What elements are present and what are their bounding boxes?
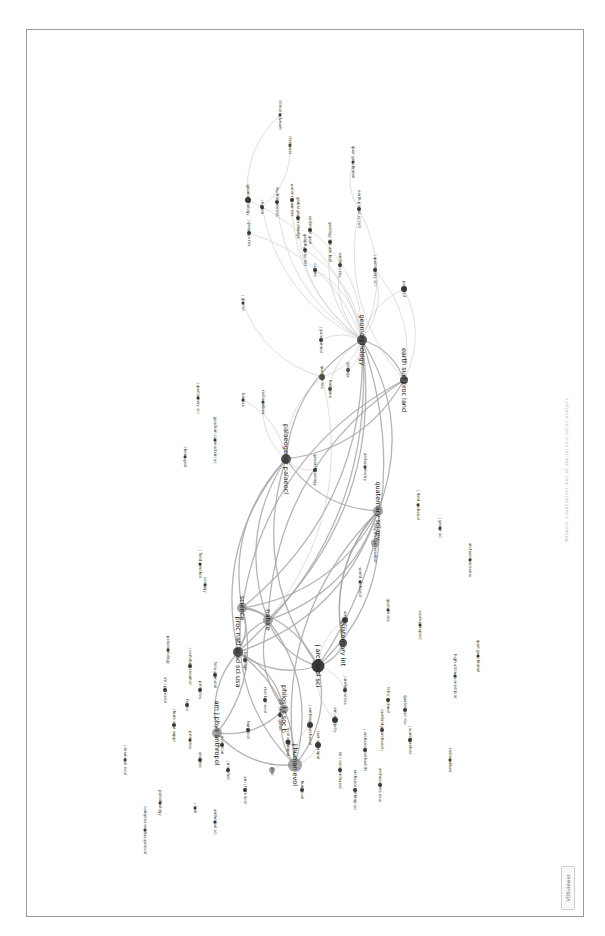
network-node[interactable]: j zool bbox=[193, 802, 198, 814]
node-label: geomorphology bbox=[246, 184, 251, 216]
node-label: am j hum biol bbox=[243, 776, 248, 803]
network-node[interactable]: lithic technol bbox=[386, 687, 391, 713]
network-node[interactable]: j mammal evol bbox=[123, 744, 128, 775]
network-node[interactable]: archaeol anthrop sci bbox=[353, 770, 358, 811]
network-node[interactable]: geochim cosmochim ac bbox=[213, 416, 218, 463]
network-node[interactable]: boreas bbox=[241, 393, 246, 407]
network-node[interactable]: water resour res bbox=[290, 184, 295, 217]
network-node[interactable]: am j hum genet bbox=[278, 699, 283, 731]
network-node[interactable]: earth planet sc lett bbox=[357, 190, 362, 229]
network-node[interactable]: quat geochronol bbox=[351, 146, 356, 179]
network-node[interactable]: paleobiology bbox=[158, 790, 163, 816]
network-node[interactable]: j geophys res bbox=[247, 219, 252, 247]
network-node[interactable]: j archaeol method th bbox=[363, 728, 368, 771]
network-node[interactable]: am j hum biol bbox=[243, 776, 248, 803]
network-node[interactable]: j field archaeol bbox=[416, 489, 421, 520]
network-node[interactable]: am j phys anthropol bbox=[212, 701, 222, 766]
network-node[interactable]: j hydrol bbox=[260, 199, 265, 215]
network-node[interactable]: j geogr sci bbox=[438, 517, 443, 539]
network-node[interactable]: palaeo3 bbox=[401, 281, 407, 297]
node-label: j geogr sci bbox=[438, 517, 443, 539]
network-node[interactable]: hydrol process bbox=[275, 187, 280, 216]
node-label: quatern res bbox=[320, 365, 325, 388]
network-node[interactable]: j archaeol sci bbox=[312, 644, 325, 688]
network-node[interactable]: evol anthropol bbox=[286, 728, 291, 757]
node-label: j vertebr paleontol bbox=[188, 646, 193, 684]
node-label: primates bbox=[188, 731, 193, 749]
network-node[interactable]: quatern res bbox=[319, 365, 325, 388]
network-node[interactable]: ecology bbox=[203, 577, 208, 593]
node-label: high altitude med biol bbox=[453, 654, 458, 698]
network-node[interactable]: geomorphology bbox=[245, 184, 251, 216]
node-label: palaeontology bbox=[166, 636, 171, 665]
network-node[interactable]: radiocarbon bbox=[448, 748, 453, 772]
network-node[interactable]: mol biol evol bbox=[263, 687, 268, 713]
network-node[interactable]: j anat bbox=[269, 763, 275, 776]
network-node[interactable]: holocene bbox=[328, 380, 333, 399]
network-node[interactable]: am antiquity bbox=[332, 707, 338, 733]
network-node[interactable]: world archaeol bbox=[358, 567, 363, 597]
network-node[interactable]: veg hist archaeobot bbox=[371, 523, 379, 563]
network-node[interactable]: quat geochronol bbox=[476, 640, 481, 673]
network-node[interactable]: climate dynam bbox=[278, 100, 283, 130]
network-node[interactable]: j paleolimnol bbox=[319, 326, 324, 353]
network-node[interactable]: geomorphology bbox=[357, 314, 367, 365]
network-node[interactable]: geoarchaeology bbox=[313, 454, 318, 487]
network-node[interactable]: palaeontology bbox=[166, 636, 171, 665]
network-node[interactable]: primates bbox=[198, 681, 203, 699]
network-node[interactable]: j world prehist bbox=[408, 725, 413, 755]
network-node[interactable]: primates bbox=[188, 731, 193, 749]
network-node[interactable]: hum evol bbox=[300, 781, 305, 800]
network-node[interactable]: homo bbox=[185, 699, 190, 711]
network-node[interactable]: science bbox=[237, 596, 247, 620]
network-node[interactable]: catena bbox=[313, 263, 318, 277]
network-node[interactable]: nature bbox=[263, 609, 273, 630]
network-node[interactable]: earth-sci rev bbox=[338, 252, 343, 278]
network-node[interactable]: j anthropol res bbox=[343, 675, 348, 705]
network-node[interactable]: archaeol res asia bbox=[378, 768, 383, 803]
network-node[interactable]: evolution bbox=[220, 736, 225, 755]
network-node[interactable]: radiocarbon bbox=[261, 390, 266, 414]
node-label: evol anthropol bbox=[286, 728, 291, 757]
network-node[interactable]: chem geol bbox=[183, 447, 188, 468]
node-label: earth-sci rev bbox=[338, 252, 343, 278]
node-label: nature bbox=[264, 609, 272, 630]
network-node[interactable]: archaeol oceania bbox=[468, 543, 473, 578]
network-node[interactable]: archaeometry bbox=[363, 453, 368, 482]
network-node[interactable]: j glaciol bbox=[241, 294, 246, 310]
network-node[interactable]: j biogeogr bbox=[243, 649, 248, 670]
network-edge bbox=[286, 340, 362, 459]
network-node[interactable]: j anthropol archaeol bbox=[307, 704, 313, 745]
network-node[interactable]: j vertebr paleontol bbox=[188, 646, 193, 684]
network-node[interactable]: comptes rendus palevol bbox=[143, 806, 148, 854]
network-node[interactable]: earth surf proc land bbox=[400, 348, 408, 412]
network-node[interactable]: geology bbox=[346, 362, 351, 379]
node-label: geoarchaeology bbox=[313, 454, 318, 487]
network-node[interactable]: j hum evol suppl bbox=[172, 707, 177, 741]
node-label: lithic technol bbox=[386, 687, 391, 713]
node-label: radiocarbon bbox=[448, 748, 453, 772]
network-node[interactable]: clim past bbox=[288, 136, 293, 155]
node-label: mol biol evol bbox=[263, 687, 268, 713]
network-node[interactable]: high altitude med biol bbox=[453, 654, 458, 698]
network-node[interactable]: cambridge archaeol j bbox=[380, 709, 385, 751]
network-node[interactable]: hum biol bbox=[246, 721, 251, 738]
network-node[interactable]: anthropol sci bbox=[213, 809, 218, 835]
network-node[interactable]: palaeogeogr palaeocl bbox=[281, 424, 291, 494]
network-node[interactable]: int j primatol bbox=[163, 677, 168, 703]
network-node[interactable]: geology soc am bull bbox=[328, 222, 333, 262]
network-node[interactable]: asian perspect bbox=[418, 610, 423, 640]
network-node[interactable]: quatern sci rev bbox=[403, 695, 408, 726]
network-node[interactable]: global planet change bbox=[296, 197, 301, 240]
network-node[interactable]: int j osteoarchaeol bbox=[338, 751, 343, 788]
network-node[interactable]: j quaternary sci bbox=[373, 253, 378, 285]
network-node[interactable]: j field ornithol bbox=[198, 549, 203, 578]
network-node[interactable]: curr anthropol bbox=[315, 731, 321, 759]
network-node[interactable]: anat rec bbox=[198, 752, 203, 769]
network-node[interactable]: proc natl acad sci usa bbox=[233, 617, 243, 688]
network-node[interactable]: j morphol bbox=[226, 759, 231, 779]
network-node[interactable]: folia primatol bbox=[213, 662, 218, 689]
network-node[interactable]: j quaternary sci bbox=[196, 381, 201, 413]
network-node[interactable]: quatern res bbox=[386, 598, 391, 621]
network-node[interactable]: geophys res lett bbox=[303, 234, 308, 267]
